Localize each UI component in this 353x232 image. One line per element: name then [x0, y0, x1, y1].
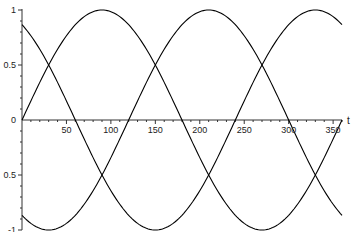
- y-tick-label: 0.5: [3, 60, 16, 70]
- x-tick-label: 250: [237, 125, 252, 135]
- y-tick-label: 0.5: [3, 170, 16, 180]
- x-tick-label: 300: [281, 125, 296, 135]
- chart: 50100150200250300350t10.500.5-1: [0, 0, 353, 232]
- x-tick-label: 50: [61, 125, 71, 135]
- y-tick-label: -1: [8, 225, 16, 232]
- x-tick-label: 200: [192, 125, 207, 135]
- x-tick-label: 100: [103, 125, 118, 135]
- x-tick-label: 150: [148, 125, 163, 135]
- y-tick-label: 0: [11, 115, 16, 125]
- axes: [18, 9, 342, 230]
- x-axis-label: t: [347, 115, 350, 126]
- tick-labels: 50100150200250300350t10.500.5-1: [3, 5, 350, 232]
- x-tick-label: 350: [326, 125, 341, 135]
- y-tick-label: 1: [11, 5, 16, 15]
